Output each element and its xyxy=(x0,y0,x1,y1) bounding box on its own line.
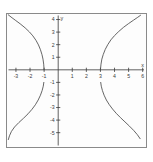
x-tick-label: 4 xyxy=(113,73,116,79)
x-tick-label: 1 xyxy=(71,73,74,79)
y-tick-label: 3 xyxy=(52,29,55,35)
x-tick-label: -2 xyxy=(28,73,33,79)
y-tick-label: -5 xyxy=(50,130,55,136)
x-axis-label: x xyxy=(141,62,144,68)
x-tick-label: 2 xyxy=(85,73,88,79)
y-axis-label: y xyxy=(60,15,63,21)
graph-figure: -3-2-11234564321-1-2-3-4-5 x y xyxy=(0,0,153,162)
y-tick-label: -2 xyxy=(50,92,55,98)
x-tick-label: -3 xyxy=(14,73,19,79)
hyperbola-plot: -3-2-11234564321-1-2-3-4-5 x y xyxy=(0,0,153,162)
y-tick-label: -4 xyxy=(50,117,55,123)
x-tick-label: 3 xyxy=(99,73,102,79)
y-tick-label: 1 xyxy=(52,54,55,60)
y-tick-label: 4 xyxy=(52,16,55,22)
y-tick-label: -3 xyxy=(50,104,55,110)
x-tick-label: 6 xyxy=(141,73,144,79)
x-tick-label: 5 xyxy=(127,73,130,79)
y-tick-label: 2 xyxy=(52,42,55,48)
plot-frame-border xyxy=(7,14,147,148)
y-tick-label: -1 xyxy=(50,79,55,85)
x-tick-label: -1 xyxy=(42,73,47,79)
